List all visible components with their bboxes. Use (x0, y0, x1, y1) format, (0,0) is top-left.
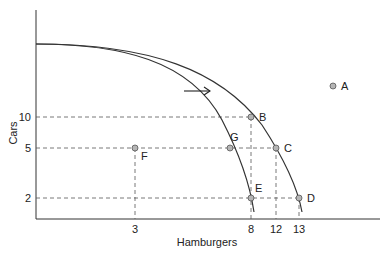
y-axis-title: Cars (7, 121, 19, 145)
point-a-label: A (341, 80, 349, 92)
x-tick-labels: 381213 (132, 223, 305, 235)
x-tick-label: 8 (248, 223, 254, 235)
point-e-label: E (255, 182, 262, 194)
y-tick-labels: 1052 (19, 111, 31, 204)
y-tick-label: 2 (25, 192, 31, 204)
diagram-canvas: ABCDEFG 1052 381213 Cars Hamburgers (0, 0, 384, 258)
x-tick-label: 13 (293, 223, 305, 235)
guide-lines (36, 117, 299, 219)
point-f-marker (132, 145, 138, 151)
x-tick-label: 3 (132, 223, 138, 235)
y-tick-label: 5 (25, 142, 31, 154)
point-d-marker (296, 195, 302, 201)
point-g-label: G (230, 131, 239, 143)
x-tick-label: 12 (270, 223, 282, 235)
point-d-label: D (307, 192, 315, 204)
point-c-marker (273, 145, 279, 151)
point-c-label: C (284, 142, 292, 154)
point-b-marker (248, 114, 254, 120)
points-layer: ABCDEFG (132, 80, 349, 204)
ppf-diagram: ABCDEFG 1052 381213 Cars Hamburgers (0, 0, 384, 258)
point-e-marker (248, 195, 254, 201)
y-tick-label: 10 (19, 111, 31, 123)
x-axis-title: Hamburgers (177, 236, 238, 248)
point-g-marker (227, 145, 233, 151)
point-a-marker (330, 83, 336, 89)
point-b-label: B (259, 111, 266, 123)
point-f-label: F (141, 150, 148, 162)
inner-ppf-curve (36, 44, 254, 212)
